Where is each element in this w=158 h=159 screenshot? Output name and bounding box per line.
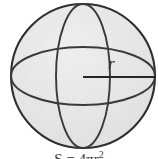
radius-label: r: [108, 55, 115, 72]
sphere-grain-texture: [0, 0, 158, 159]
formula-text: S = 4πr: [54, 151, 98, 159]
sphere-drawing: [0, 0, 158, 159]
formula-exponent: 2: [99, 150, 104, 159]
formula-caption: S = 4πr2: [0, 150, 158, 159]
sphere-diagram-figure: r S = 4πr2: [0, 0, 158, 159]
